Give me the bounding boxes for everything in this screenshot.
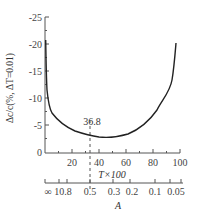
y-tick-label: -20 <box>29 39 42 50</box>
x-axis-title: T×100 <box>98 169 125 180</box>
y-tick-label: -25 <box>29 12 42 23</box>
data-curve <box>46 40 176 137</box>
y-tick-label: 0 <box>37 147 42 158</box>
x-tick-label: 20 <box>67 157 77 168</box>
x-tick-label: 100 <box>173 157 188 168</box>
y-tick-label: -15 <box>29 66 42 77</box>
a-tick-label: 0.05 <box>167 186 185 197</box>
a-tick-label: ∞ <box>44 186 51 197</box>
a-tick-label: 0.2 <box>126 186 139 197</box>
chart: -25 -20 -15 -10 -5 0 Δc/c(%, ΔT=0.01) 20… <box>0 0 198 217</box>
y-tick-label: -10 <box>29 93 42 104</box>
x-ticks <box>59 149 181 153</box>
x-tick-label: 80 <box>148 157 158 168</box>
annotation-label: 36.8 <box>83 116 101 127</box>
x-tick-label: 60 <box>121 157 131 168</box>
a-tick-label: 0.1 <box>149 186 162 197</box>
a-tick-label: 0.5 <box>84 186 97 197</box>
secondary-axis-title: A <box>114 200 122 211</box>
y-axis-title: Δc/c(%, ΔT=0.01) <box>5 53 16 123</box>
x-tick-label: 40 <box>94 157 104 168</box>
a-tick-label: 10.8 <box>54 186 72 197</box>
a-tick-label: 0.3 <box>108 186 121 197</box>
secondary-ticks <box>45 179 181 183</box>
y-tick-label: -5 <box>34 120 42 131</box>
